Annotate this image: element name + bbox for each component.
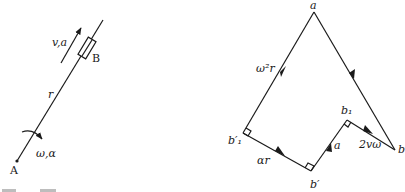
label-bprime: b′ [310, 178, 320, 191]
vector-total [314, 12, 395, 150]
rotation-arrow [22, 131, 42, 139]
label-omega-alpha: ω,α [36, 147, 56, 160]
label-B: B [92, 52, 100, 65]
figure-caption-partial [2, 189, 56, 192]
label-coriolis: 2vω [358, 138, 381, 151]
label-b-point: b [398, 143, 405, 156]
label-a-point: a [310, 0, 317, 12]
label-r: r [48, 88, 54, 101]
label-A: A [9, 164, 19, 177]
label-b1prime: b′₁ [228, 134, 242, 147]
label-va: v,a [52, 36, 67, 49]
label-alpha-r: αr [257, 154, 270, 167]
label-b1: b₁ [341, 104, 352, 117]
label-omega2r: ω²r [256, 62, 275, 75]
label-a-accel: a [334, 139, 341, 152]
rotating-rod-figure: v,a B r ω,α A [9, 20, 103, 177]
pivot-point-A [15, 159, 18, 162]
vector-a [311, 120, 347, 171]
vector-omega2r [243, 12, 314, 133]
acceleration-polygon: a ω²r b′₁ αr b′ a b₁ 2vω b [228, 0, 405, 191]
